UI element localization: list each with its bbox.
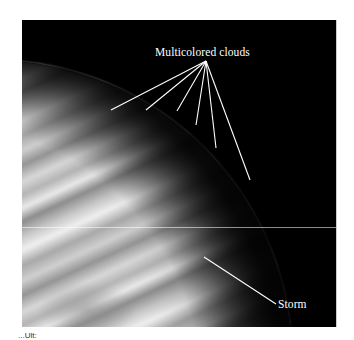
planet-photo: Multicolored clouds Storm — [22, 20, 337, 327]
leader-lines — [22, 20, 336, 327]
caption-fragment: ...Ult: — [18, 331, 37, 340]
leader-line-storm — [204, 257, 276, 304]
clouds-label: Multicolored clouds — [155, 46, 250, 58]
leader-line-cloud-2 — [146, 61, 206, 110]
storm-label: Storm — [278, 298, 307, 310]
